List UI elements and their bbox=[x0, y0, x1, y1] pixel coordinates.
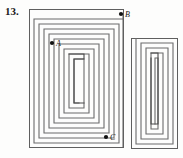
spiral-core-hook bbox=[69, 54, 84, 103]
main-spiral-group bbox=[30, 10, 124, 148]
side-spiral-wall-1 bbox=[136, 39, 173, 145]
point-c-label: C bbox=[110, 133, 116, 142]
spiral-wall-1 bbox=[34, 19, 123, 143]
side-spiral-group bbox=[132, 39, 178, 149]
spiral-maze-figure: A B C bbox=[0, 0, 183, 158]
point-a-label: A bbox=[55, 39, 61, 48]
labeled-points-group: A B C bbox=[50, 10, 130, 142]
point-b-label: B bbox=[125, 10, 130, 19]
point-b-marker bbox=[119, 12, 123, 16]
point-a-marker bbox=[50, 41, 54, 45]
figure-container: 13. A B bbox=[0, 0, 183, 158]
point-c-marker bbox=[104, 135, 108, 139]
